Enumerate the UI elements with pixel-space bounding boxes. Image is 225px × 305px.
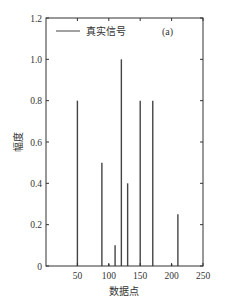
y-tick-label: 0.4 <box>30 179 42 189</box>
x-axis-label: 数据点 <box>109 285 139 297</box>
signal-stems <box>77 59 177 266</box>
panel-label: (a) <box>162 26 173 38</box>
legend-label: 真实信号 <box>86 25 126 37</box>
y-tick-label: 0.6 <box>30 138 42 148</box>
y-tick-label: 1.0 <box>30 55 42 65</box>
legend: 真实信号 <box>56 25 126 37</box>
y-tick-label: 0.8 <box>30 96 42 106</box>
x-tick-label: 50 <box>73 271 83 281</box>
axes: 00.20.40.60.81.01.250100150200250 <box>30 14 210 282</box>
x-tick-label: 250 <box>196 271 211 281</box>
x-tick-label: 100 <box>102 271 117 281</box>
y-axis-label: 幅度 <box>12 132 24 152</box>
y-tick-label: 0 <box>37 262 42 272</box>
y-tick-label: 0.2 <box>30 220 42 230</box>
plot-frame <box>46 18 203 266</box>
x-tick-label: 200 <box>164 271 179 281</box>
stem-chart: 00.20.40.60.81.01.250100150200250 真实信号 (… <box>0 0 225 305</box>
y-tick-label: 1.2 <box>30 14 42 24</box>
x-tick-label: 150 <box>133 271 148 281</box>
